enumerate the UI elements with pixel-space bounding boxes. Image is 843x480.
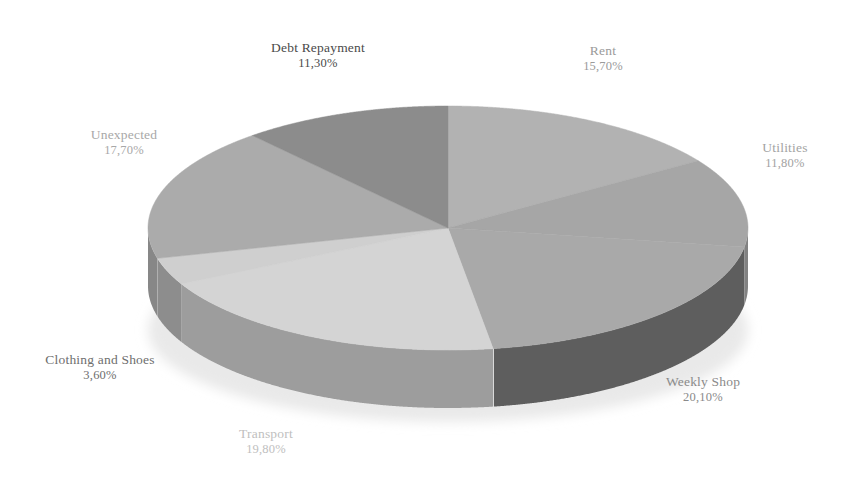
pie-label-unexpected-name: Unexpected bbox=[91, 127, 157, 143]
pie-label-unexpected-value: 17,70% bbox=[91, 143, 157, 158]
pie-label-utilities-name: Utilities bbox=[762, 140, 807, 156]
pie-label-rent-value: 15,70% bbox=[583, 59, 623, 74]
pie-label-clothing-and-shoes-name: Clothing and Shoes bbox=[45, 352, 154, 368]
pie-label-transport-value: 19,80% bbox=[239, 442, 293, 457]
pie-chart: Debt Repayment 11,30% Rent 15,70% Utilit… bbox=[0, 0, 843, 480]
pie-label-unexpected: Unexpected 17,70% bbox=[91, 127, 157, 159]
pie-label-weekly-shop: Weekly Shop 20,10% bbox=[666, 374, 740, 406]
pie-label-weekly-shop-name: Weekly Shop bbox=[666, 374, 740, 390]
pie-label-clothing-and-shoes-value: 3,60% bbox=[45, 368, 154, 383]
pie-label-transport-name: Transport bbox=[239, 426, 293, 442]
pie-label-utilities: Utilities 11,80% bbox=[762, 140, 807, 172]
pie-top-slices bbox=[148, 106, 748, 350]
pie-label-clothing-and-shoes: Clothing and Shoes 3,60% bbox=[45, 352, 154, 384]
pie-label-weekly-shop-value: 20,10% bbox=[666, 390, 740, 405]
pie-label-rent: Rent 15,70% bbox=[583, 43, 623, 75]
pie-label-debt-repayment-value: 11,30% bbox=[271, 56, 365, 71]
pie-label-debt-repayment-name: Debt Repayment bbox=[271, 40, 365, 56]
pie-label-transport: Transport 19,80% bbox=[239, 426, 293, 458]
pie-label-utilities-value: 11,80% bbox=[762, 156, 807, 171]
pie-label-debt-repayment: Debt Repayment 11,30% bbox=[271, 40, 365, 72]
pie-label-rent-name: Rent bbox=[583, 43, 623, 59]
pie-chart-canvas bbox=[0, 0, 843, 480]
